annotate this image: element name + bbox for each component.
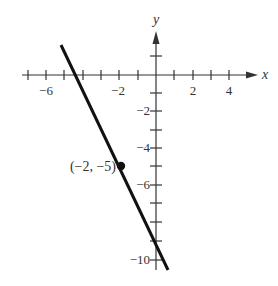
x-tick-label: 4	[226, 83, 233, 98]
y-tick-label: −10	[130, 252, 150, 267]
point-label: (−2, −5)	[70, 159, 116, 175]
y-tick-label: −4	[136, 140, 150, 155]
x-axis-label: x	[261, 67, 269, 82]
x-tick-label: −2	[111, 83, 125, 98]
x-axis-arrow-icon	[246, 72, 258, 79]
x-tick-label: −6	[39, 83, 53, 98]
x-tick-label: 2	[190, 83, 197, 98]
graph-line	[61, 45, 168, 270]
coordinate-plane: −6 −2 2 4 −2 −4 −6 −10 x y (−2, −5)	[0, 0, 278, 286]
y-tick-label: −6	[136, 177, 150, 192]
y-tick-label: −2	[136, 103, 150, 118]
y-axis-arrow-icon	[153, 31, 160, 44]
y-axis-label: y	[151, 12, 160, 27]
point-marker	[117, 162, 125, 170]
